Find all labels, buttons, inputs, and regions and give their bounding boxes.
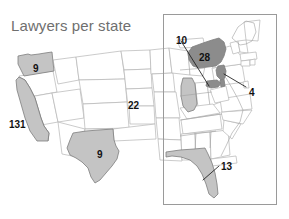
value-label-florida: 13 [221,162,232,172]
state-id [53,57,79,84]
state-mt [76,51,125,80]
page-title: Lawyers per state [11,17,131,34]
state-me [244,20,260,41]
state-ut [52,89,84,122]
value-label-illinois: 22 [128,101,139,111]
value-label-texas: 9 [97,150,103,160]
state-ct [241,60,250,66]
state-tx-highlight [67,129,119,183]
state-nh [238,40,248,53]
value-label-new-jersey: 4 [249,88,255,98]
value-label-california: 131 [9,120,26,130]
state-ri [250,59,255,65]
state-sd [124,69,152,89]
state-co [83,102,129,129]
figure-root: Lawyers per state 131 28 22 13 10 9 9 4 [0,0,289,219]
state-nd [121,50,151,70]
state-wi [169,48,190,75]
state-mn [150,48,172,74]
state-wy [79,79,127,104]
state-de-highlight [220,79,225,87]
value-label-maryland: 10 [176,36,187,46]
value-label-new-york: 28 [199,53,210,63]
value-label-washington: 9 [33,64,39,74]
state-mo [154,92,180,118]
state-ar [156,118,181,140]
